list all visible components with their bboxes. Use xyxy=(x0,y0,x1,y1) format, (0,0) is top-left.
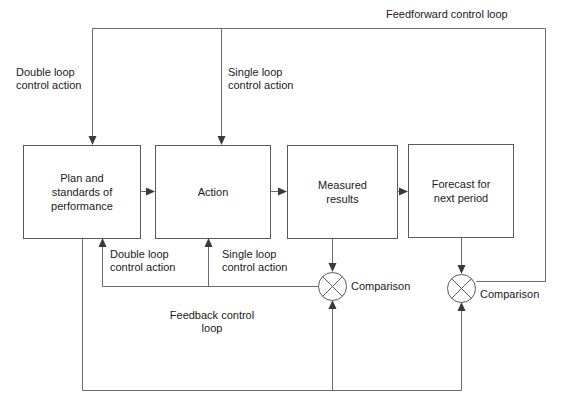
box-label-measured-results: Measured results xyxy=(287,145,398,239)
arrow-down-into-comparison1 xyxy=(329,263,337,272)
arrow-up-into-comparison1 xyxy=(329,300,337,309)
arrow-down-into-plan xyxy=(89,136,97,145)
arrow-up-into-comparison2 xyxy=(458,302,466,311)
arrow-into-forecast xyxy=(399,188,408,196)
arrow-up-into-plan xyxy=(99,238,107,247)
arrow-into-measured-results xyxy=(278,188,287,196)
box-label-forecast-next-period: Forecast for next period xyxy=(408,144,514,238)
arrow-down-into-action xyxy=(218,136,226,145)
control-loop-diagram: Plan and standards of performance Action… xyxy=(0,0,562,409)
arrow-down-into-comparison2 xyxy=(458,265,466,274)
feedback-loop-outer-path xyxy=(83,239,462,391)
arrow-into-action xyxy=(146,188,155,196)
box-label-plan-and-standards: Plan and standards of performance xyxy=(23,145,141,239)
box-label-action: Action xyxy=(155,145,271,239)
arrow-up-into-action xyxy=(205,238,213,247)
